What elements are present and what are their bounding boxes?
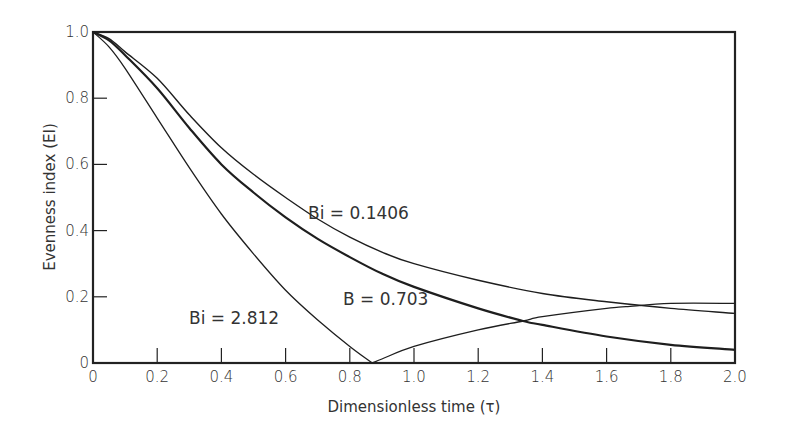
x-tick-label: 0.6 [274, 368, 298, 386]
x-tick-label: 0.8 [338, 368, 362, 386]
x-tick-label: 1.8 [659, 368, 683, 386]
y-tick-label: 0 [79, 354, 89, 372]
y-tick-label: 0.8 [65, 89, 89, 107]
x-axis-title: Dimensionless time (τ) [328, 398, 501, 416]
x-tick-label: 1.6 [595, 368, 619, 386]
y-tick-label: 0.2 [65, 288, 89, 306]
y-tick-label: 0.6 [65, 155, 89, 173]
series-line-bi-0-1406 [93, 32, 735, 313]
annotation-bi-0-1406: Bi = 0.1406 [308, 203, 409, 223]
x-axis-ticks: 00.20.40.60.81.01.21.41.61.82.0 [88, 348, 747, 386]
y-axis-ticks: 00.20.40.60.81.0 [65, 23, 107, 372]
x-tick-label: 2.0 [723, 368, 747, 386]
y-tick-label: 0.4 [65, 222, 89, 240]
annotation-bi-2-812: Bi = 2.812 [189, 308, 279, 328]
y-tick-label: 1.0 [65, 23, 89, 41]
x-tick-label: 1.4 [530, 368, 554, 386]
x-tick-label: 1.0 [402, 368, 426, 386]
x-tick-label: 1.2 [466, 368, 490, 386]
y-axis-title: Evenness index (EI) [41, 123, 59, 271]
x-tick-label: 0 [88, 368, 98, 386]
annotation-b-0-703: B = 0.703 [343, 289, 428, 309]
line-chart: 00.20.40.60.81.01.21.41.61.82.0 00.20.40… [0, 0, 786, 427]
x-tick-label: 0.2 [145, 368, 169, 386]
x-tick-label: 0.4 [209, 368, 233, 386]
